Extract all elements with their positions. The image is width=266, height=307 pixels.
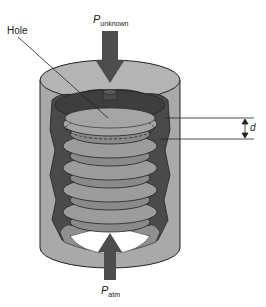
top-plate xyxy=(55,90,165,129)
p-unknown-subscript: unknown xyxy=(100,20,128,27)
bellows-gauge-diagram xyxy=(0,0,266,307)
p-atm-label: Patm xyxy=(101,285,120,298)
hole-label: Hole xyxy=(7,26,28,36)
bellows xyxy=(63,112,157,232)
p-atm-subscript: atm xyxy=(108,291,120,298)
p-unknown-label: Punknown xyxy=(93,14,128,27)
displacement-label: d xyxy=(250,123,256,133)
